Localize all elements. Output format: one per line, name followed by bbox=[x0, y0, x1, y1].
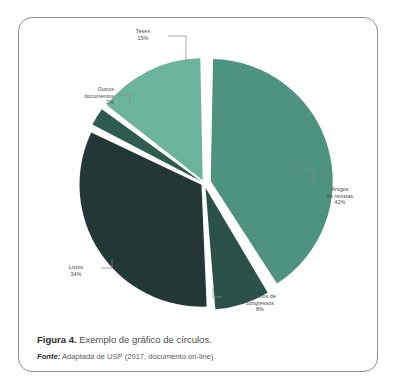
pie-chart-svg bbox=[0, 0, 400, 330]
figure-container: Teses 15% Outros documentos 3% Artigos d… bbox=[0, 0, 400, 391]
pie-label-outros-documentos: Outros documentos 3% bbox=[32, 86, 114, 106]
pie-label-trabalhos-line2: congressos bbox=[224, 300, 296, 307]
pie-label-artigos-value: 42% bbox=[309, 199, 371, 206]
pie-label-outros-line1: Outros bbox=[32, 86, 114, 93]
pie-label-artigos-de-revistas: Artigos de revistas 42% bbox=[309, 186, 371, 206]
pie-label-outros-value: 3% bbox=[32, 99, 114, 106]
source-line: Fonte: Adaptada de USP (2017, documento … bbox=[37, 350, 357, 363]
pie-label-artigos-line2: de revistas bbox=[309, 193, 371, 200]
pie-label-trabalhos-de-congressos: Trabalhos de congressos 8% bbox=[224, 293, 296, 313]
pie-label-artigos-line1: Artigos bbox=[309, 186, 371, 193]
pie-label-livros-value: 34% bbox=[52, 271, 100, 278]
pie-label-trabalhos-line1: Trabalhos de bbox=[224, 293, 296, 300]
pie-label-trabalhos-value: 8% bbox=[224, 306, 296, 313]
pie-label-outros-line2: documentos bbox=[32, 93, 114, 100]
leader-line-teses bbox=[168, 36, 186, 60]
caption-line: Figura 4. Exemplo de gráfico de círculos… bbox=[37, 333, 357, 347]
source-label: Fonte: bbox=[37, 352, 60, 361]
caption-figure-text: Exemplo de gráfico de círculos. bbox=[77, 334, 212, 345]
pie-label-teses-value: 15% bbox=[118, 35, 168, 42]
source-text: Adaptada de USP (2017, documento on-line… bbox=[60, 352, 215, 361]
pie-chart bbox=[0, 0, 400, 330]
pie-label-livros-line1: Livros bbox=[52, 264, 100, 271]
pie-label-teses: Teses 15% bbox=[118, 28, 168, 41]
pie-label-livros: Livros 34% bbox=[52, 264, 100, 277]
pie-label-teses-line1: Teses bbox=[118, 28, 168, 35]
caption-figure-number: Figura 4. bbox=[37, 334, 77, 345]
figure-caption: Figura 4. Exemplo de gráfico de círculos… bbox=[37, 333, 357, 363]
